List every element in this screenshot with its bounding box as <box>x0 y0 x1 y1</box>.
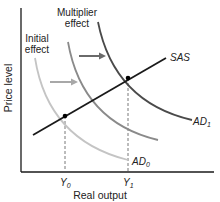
equilibrium-point-y1 <box>126 76 131 81</box>
ad1-label: AD1 <box>192 116 211 128</box>
x-axis-label: Real output <box>73 189 127 201</box>
y1-tick-label: Y1 <box>123 177 134 189</box>
y-axis-label: Price level <box>2 64 14 112</box>
ad0-curve <box>35 58 128 160</box>
sas-label: SAS <box>170 52 190 63</box>
equilibrium-point-y0 <box>63 114 68 119</box>
initial-effect-label-line1: Initial <box>25 33 48 44</box>
aggregate-demand-multiplier-diagram: Price level Initial effect Multiplier ef… <box>0 0 220 202</box>
initial-shift-arrow-icon <box>50 79 78 86</box>
initial-effect-label-line2: effect <box>25 44 49 55</box>
sas-line <box>33 58 166 135</box>
ad0-label: AD0 <box>131 156 150 168</box>
multiplier-effect-label-line1: Multiplier <box>57 7 98 18</box>
multiplier-effect-label-line2: effect <box>65 18 89 29</box>
multiplier-shift-arrow-icon <box>79 53 106 60</box>
y0-tick-label: Y0 <box>60 177 71 189</box>
